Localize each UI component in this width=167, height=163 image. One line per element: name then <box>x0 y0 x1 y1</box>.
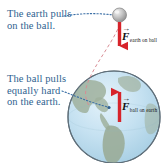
force-subscript-earth-on-ball: earth on ball <box>130 37 157 43</box>
ball-sphere <box>113 8 127 22</box>
force-label-ball-on-earth: →Fball on earth <box>122 96 157 114</box>
vector-arrow-icon: → <box>122 25 130 33</box>
earth-globe <box>68 71 160 163</box>
force-symbol-ball-on-earth: →F <box>122 100 129 112</box>
force-subscript-ball-on-earth: ball on earth <box>130 107 157 113</box>
earth-center-dot <box>107 106 110 109</box>
force-symbol-earth-on-ball: →F <box>122 30 129 42</box>
force-label-earth-on-ball: →Fearth on ball <box>122 26 157 44</box>
vector-arrow-icon: → <box>122 95 130 103</box>
annotation-earth-pulls: The earth pulls on the ball. <box>7 8 71 31</box>
annotation-ball-pulls: The ball pulls equally hard on the earth… <box>7 73 66 108</box>
ball-object <box>113 8 127 22</box>
physics-figure: The earth pulls on the ball. The ball pu… <box>0 0 167 163</box>
ball-highlight <box>115 10 120 14</box>
